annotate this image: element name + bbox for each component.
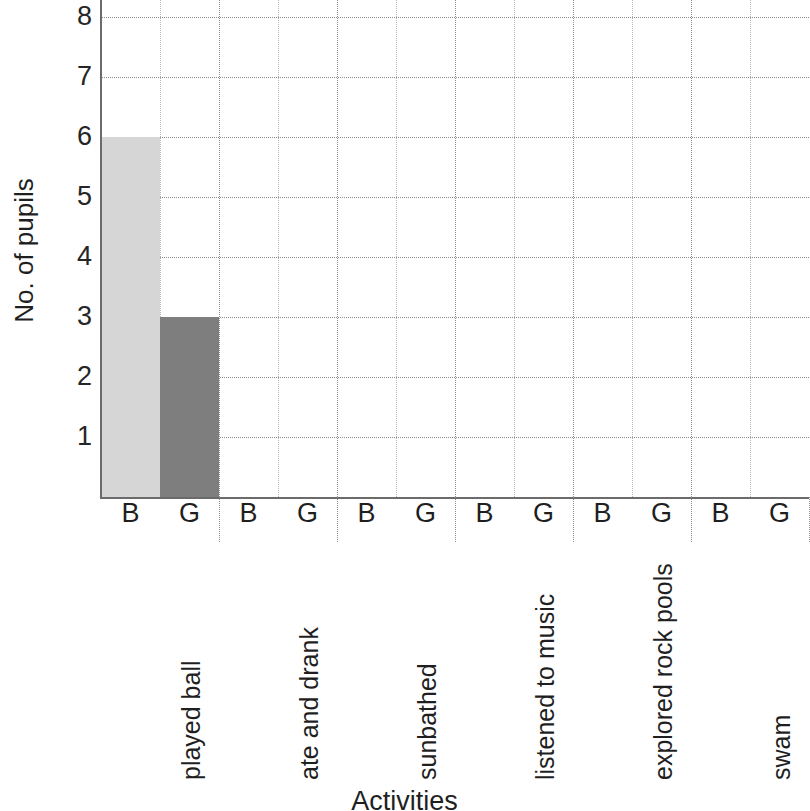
gridline-x-7 <box>514 0 515 497</box>
y-tick-label-2: 2 <box>2 363 92 390</box>
category-label-swam: swam <box>769 530 794 780</box>
category-label-ate-and-drank: ate and drank <box>297 530 322 780</box>
gridline-x-5 <box>396 0 397 497</box>
category-label-played-ball: played ball <box>179 530 204 780</box>
gridline-x-4 <box>337 0 338 497</box>
gridline-x-8 <box>573 0 574 497</box>
y-tick-label-7: 7 <box>2 63 92 90</box>
gridline-x-9 <box>632 0 633 497</box>
category-separator-1 <box>219 497 220 542</box>
bar-played-ball-G <box>160 317 219 497</box>
x-axis-title: Activities <box>0 786 809 811</box>
category-separator-3 <box>455 497 456 542</box>
bar-played-ball-B <box>101 137 160 497</box>
gridline-x-3 <box>278 0 279 497</box>
category-label-listened-to-music: listened to music <box>533 530 558 780</box>
category-label-sunbathed: sunbathed <box>415 530 440 780</box>
gridline-x-6 <box>455 0 456 497</box>
y-tick-label-8: 8 <box>2 3 92 30</box>
y-axis-title: No. of pupils <box>9 141 40 361</box>
y-axis-line <box>100 0 102 498</box>
gridline-x-10 <box>691 0 692 497</box>
category-label-explored-rock-pools: explored rock pools <box>651 530 676 780</box>
category-separator-4 <box>573 497 574 542</box>
y-tick-label-1: 1 <box>2 423 92 450</box>
category-separator-2 <box>337 497 338 542</box>
gridline-x-2 <box>219 0 220 497</box>
gridline-x-11 <box>750 0 751 497</box>
plot-area <box>101 0 809 497</box>
category-separator-5 <box>691 497 692 542</box>
category-labels: played ballate and dranksunbathedlistene… <box>101 540 809 790</box>
